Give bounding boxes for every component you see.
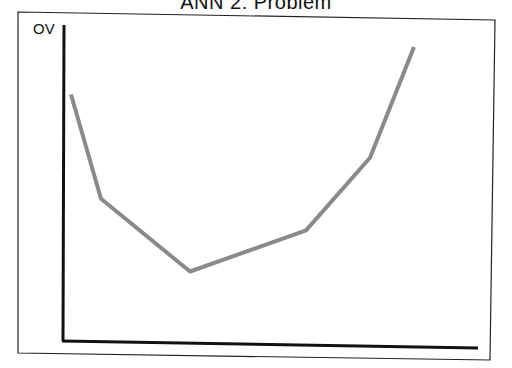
ov-series-line [71, 47, 414, 271]
chart-frame [0, 0, 512, 368]
x-axis [62, 341, 478, 348]
frame-border [18, 12, 495, 360]
y-axis [63, 25, 64, 341]
y-axis-label: OV [33, 20, 55, 37]
